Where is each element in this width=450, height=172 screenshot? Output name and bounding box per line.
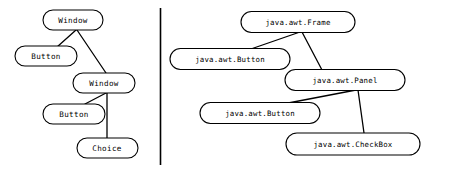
- node-label: java.awt.Frame: [265, 18, 330, 27]
- diagram-svg: Window Button Window Button Choice: [0, 0, 450, 172]
- node-label: java.awt.Button: [225, 109, 295, 118]
- node-label: java.awt.CheckBox: [313, 140, 392, 149]
- node-label: java.awt.Panel: [312, 76, 377, 85]
- node-label: Button: [59, 110, 89, 119]
- node-label: Window: [89, 79, 119, 88]
- node-label: java.awt.Button: [195, 55, 265, 64]
- edge-frame-button: [248, 32, 300, 50]
- edge-window-button: [57, 30, 76, 47]
- node-java-awt-panel[interactable]: java.awt.Panel: [285, 70, 405, 91]
- node-java-awt-checkbox[interactable]: java.awt.CheckBox: [286, 133, 420, 155]
- edge-window2-button2: [85, 93, 106, 104]
- node-button-lower[interactable]: Button: [43, 104, 105, 124]
- edge-frame-panel: [302, 32, 322, 70]
- node-java-awt-button-upper[interactable]: java.awt.Button: [170, 49, 290, 70]
- node-label: Button: [31, 52, 61, 61]
- node-label: Choice: [92, 144, 122, 153]
- right-panel-graph: java.awt.Frame java.awt.Button java.awt.…: [170, 12, 420, 156]
- edge-window-window: [77, 30, 106, 73]
- node-window-middle[interactable]: Window: [73, 73, 135, 93]
- diagram-canvas: Window Button Window Button Choice: [0, 0, 450, 172]
- node-window-top[interactable]: Window: [43, 10, 103, 30]
- left-panel-graph: Window Button Window Button Choice: [15, 10, 138, 158]
- node-java-awt-button-lower[interactable]: java.awt.Button: [200, 103, 320, 124]
- node-java-awt-frame[interactable]: java.awt.Frame: [241, 12, 355, 33]
- edge-panel-button: [283, 90, 356, 104]
- node-button-upper[interactable]: Button: [15, 46, 77, 66]
- edge-panel-checkbox: [358, 90, 364, 133]
- node-choice[interactable]: Choice: [77, 138, 138, 158]
- node-label: Window: [58, 16, 88, 25]
